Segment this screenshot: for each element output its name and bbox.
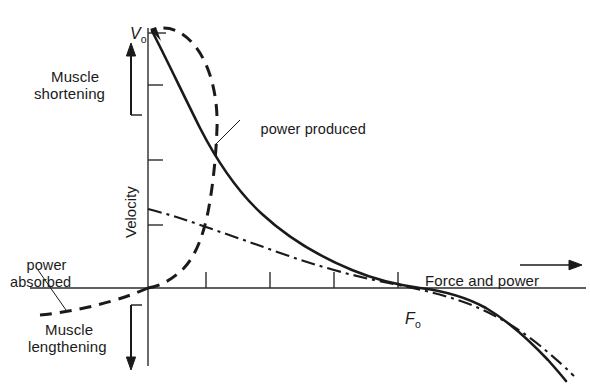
f0-subscript: o — [415, 318, 421, 330]
axes-group — [30, 28, 586, 366]
f0-base: F — [405, 310, 415, 327]
v0-base: V — [130, 25, 141, 42]
power-produced-text: power produced — [261, 121, 366, 137]
force-and-power-label: Force and power — [408, 254, 539, 307]
force-velocity-power-figure: Muscle shortening Muscle lengthening pow… — [0, 0, 590, 384]
power-produced-label: power produced — [244, 104, 366, 155]
power-absorbed-label: power absorbed — [10, 240, 71, 308]
muscle-lengthening-text: Muscle lengthening — [28, 321, 107, 356]
y-axis-ticks — [148, 33, 166, 225]
muscle-lengthening-arrow — [126, 305, 142, 370]
muscle-shortening-text: Muscle shortening — [34, 68, 105, 103]
velocity-axis-label: Velocity — [122, 186, 139, 238]
f0-label: Fo — [388, 292, 421, 348]
muscle-lengthening-label: Muscle lengthening — [28, 303, 107, 374]
v0-subscript: o — [141, 33, 147, 45]
muscle-shortening-label: Muscle shortening — [34, 50, 105, 121]
power-absorbed-text: power absorbed — [10, 257, 71, 290]
v0-label: Vo — [113, 7, 147, 63]
velocity-axis-text: Velocity — [122, 186, 139, 238]
curve-force-velocity — [152, 31, 566, 381]
x-axis-ticks — [206, 272, 398, 288]
curve-power-produced — [148, 28, 217, 288]
direction-arrows — [126, 43, 582, 370]
force-and-power-text: Force and power — [425, 272, 539, 289]
leader-power-produced — [216, 120, 240, 144]
